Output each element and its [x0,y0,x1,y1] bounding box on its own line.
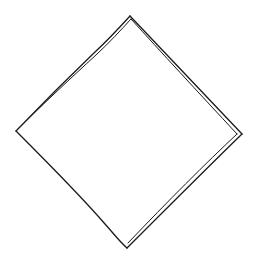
edge-bottom-right [127,134,242,248]
sketch-canvas [0,0,259,263]
edge-top-left-inner [19,19,131,128]
edge-bottom-right-inner [128,134,237,243]
edge-top-right-inner [131,19,237,134]
diamond-sketch [0,0,259,263]
edge-top-right [130,16,242,134]
edge-bottom-left [16,131,127,248]
